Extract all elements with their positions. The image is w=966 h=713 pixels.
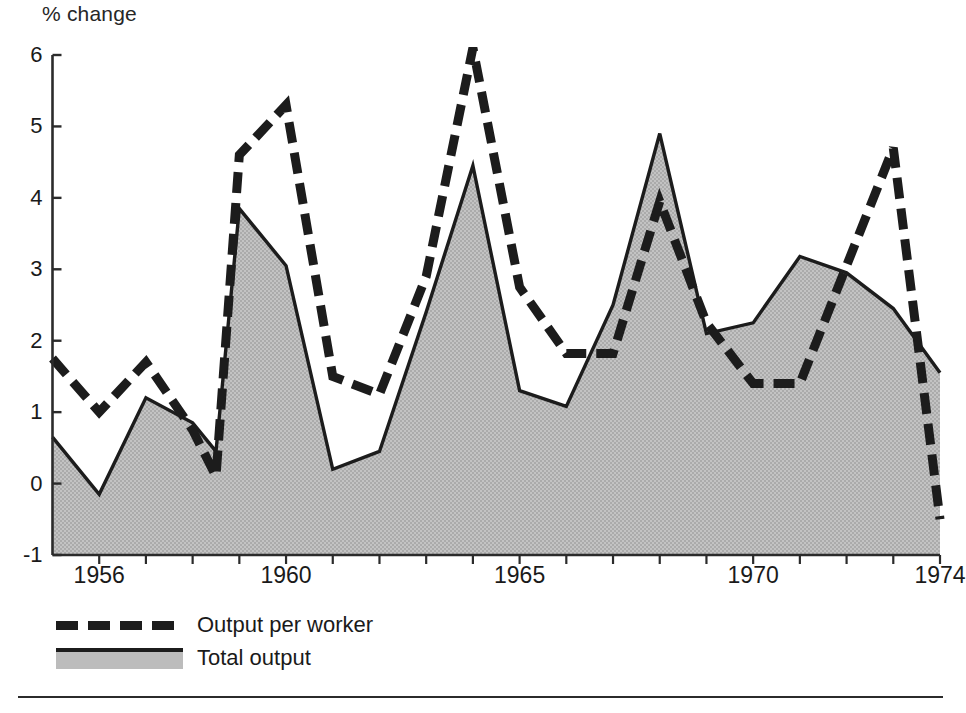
x-tick-1965: 1965 [494, 562, 545, 589]
shaded-area-key-icon [56, 647, 183, 669]
chart-legend: Output per worker Total output [56, 608, 476, 674]
legend-item-output-per-worker: Output per worker [56, 608, 476, 641]
legend-item-total-output: Total output [56, 641, 476, 674]
total-output-area [53, 134, 941, 555]
x-tick-1974: 1974 [914, 562, 965, 589]
x-tick-1970: 1970 [728, 562, 779, 589]
y-tick-0: 0 [9, 471, 43, 497]
dashed-line-key-icon [56, 614, 183, 636]
legend-label-total-output: Total output [197, 645, 311, 671]
x-tick-1956: 1956 [74, 562, 125, 589]
legend-label-output-per-worker: Output per worker [197, 612, 373, 638]
y-tick-2: 2 [9, 328, 43, 354]
y-tick-5: 5 [9, 113, 43, 139]
x-tick-1960: 1960 [260, 562, 311, 589]
y-tick-6: 6 [9, 42, 43, 68]
y-tick-1: 1 [9, 399, 43, 425]
footer-divider [18, 696, 943, 698]
y-tick-3: 3 [9, 256, 43, 282]
y-tick-neg1: -1 [9, 542, 43, 568]
y-tick-4: 4 [9, 185, 43, 211]
